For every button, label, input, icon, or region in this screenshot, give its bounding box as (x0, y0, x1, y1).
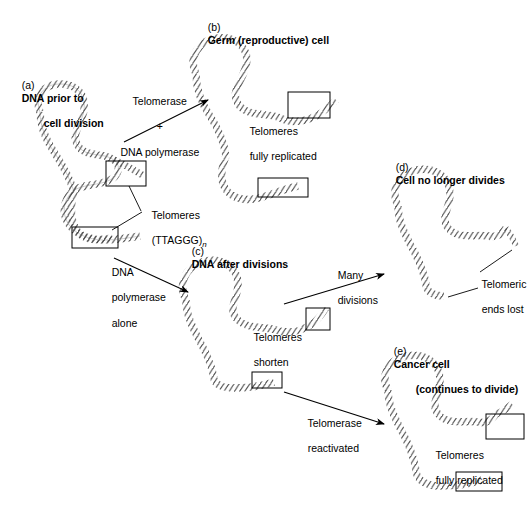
panel-title-d-line1: Cell no longer divides (396, 174, 505, 186)
leader-telomere-a-bottom (112, 212, 142, 230)
panel-title-e-line2: (continues to divide) (416, 383, 519, 395)
b-state-line2: fully replicated (250, 150, 317, 162)
dna-word: DNA (112, 266, 134, 278)
panel-title-a-line2: cell division (44, 117, 104, 129)
panel-caption-e: (e) Cancer cell (continues to divide) (382, 332, 518, 409)
panel-tag-e: (e) (394, 345, 407, 357)
label-b-telomeres-fully-replicated: Telomeres fully replicated (238, 112, 317, 176)
c-state-line2: shorten (254, 356, 289, 368)
telomere-repeat-subscript: n (202, 240, 206, 249)
panel-title-a-line1: DNA prior to (22, 92, 84, 104)
plus-sign: + (157, 120, 163, 132)
divisions-word: divisions (338, 294, 378, 306)
d-state-line1: Telomeric (481, 278, 526, 290)
figure-canvas: (a) DNA prior to cell division (b) Germ … (0, 0, 527, 512)
telomerase-text: Telomerase (133, 95, 187, 107)
panel-caption-a: (a) DNA prior to cell division (10, 66, 104, 143)
panel-title-b-line1: Germ (reproductive) cell (208, 34, 329, 46)
panel-tag-b: (b) (208, 21, 221, 33)
label-c-telomeres-shorten: Telomeres shorten (242, 318, 302, 382)
d-state-line2: ends lost (482, 303, 524, 315)
label-telomerase-plus-polymerase: Telomerase + DNA polymerase (96, 82, 212, 172)
b-state-line1: Telomeres (249, 125, 297, 137)
e-arrow-line1: Telomerase (307, 417, 361, 429)
panel-tag-a: (a) (22, 79, 35, 91)
many-word: Many (338, 269, 364, 281)
label-many-divisions: Many divisions (326, 256, 378, 320)
label-e-telomeres-fully-replicated: Telomeres fully replicated (424, 436, 503, 500)
panel-tag-d: (d) (396, 161, 409, 173)
panel-caption-d: (d) Cell no longer divides (384, 148, 505, 199)
panel-caption-b: (b) Germ (reproductive) cell (196, 8, 329, 59)
telomere-repeat-sequence: (TTAGGG) (152, 234, 203, 246)
telomeres-word: Telomeres (151, 209, 199, 221)
e-state-line1: Telomeres (435, 449, 483, 461)
label-telomerase-reactivated: Telomerase reactivated (296, 404, 362, 468)
label-dna-polymerase-alone: DNA polymerase alone (100, 253, 166, 343)
dna-polymerase-text: DNA polymerase (120, 146, 199, 158)
alone-word: alone (112, 317, 138, 329)
panel-title-e-line1: Cancer cell (394, 358, 450, 370)
c-state-line1: Telomeres (253, 331, 301, 343)
e-state-line2: fully replicated (436, 474, 503, 486)
polymerase-word: polymerase (112, 291, 166, 303)
e-arrow-line2: reactivated (308, 442, 359, 454)
label-d-telomeric-ends-lost: Telomeric ends lost (470, 265, 526, 329)
